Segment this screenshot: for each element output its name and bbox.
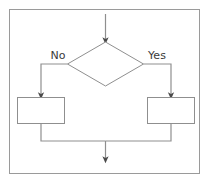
flowchart-canvas: No Yes [0, 0, 211, 184]
flowchart-diagram: No Yes [0, 0, 211, 184]
branch-label-yes: Yes [147, 49, 166, 62]
process-box-no [18, 98, 65, 124]
process-box-yes [148, 98, 195, 124]
branch-label-no: No [51, 49, 66, 62]
